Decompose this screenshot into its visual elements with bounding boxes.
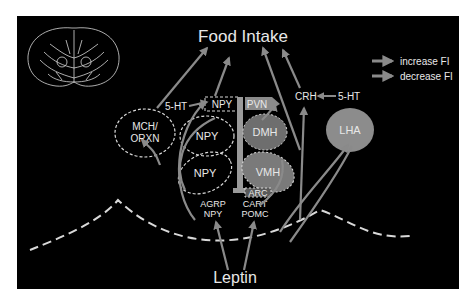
5ht-left-label: 5-HT [165, 101, 187, 112]
npy-low-label: NPY [194, 167, 217, 179]
brain-section-icon [28, 28, 119, 86]
vmh-label: VMH [256, 166, 281, 178]
5ht-right-label: 5-HT [338, 91, 360, 102]
food-intake-title: Food Intake [198, 27, 288, 46]
leptin-label: Leptin [213, 269, 257, 286]
legend-decrease-label: decrease FI [400, 71, 453, 82]
legend-increase-label: increase FI [400, 56, 449, 67]
arc-label: ARC [248, 188, 268, 198]
pvn-label: PVN [247, 99, 268, 110]
lha-label: LHA [339, 124, 361, 136]
agrp-label: AGRP [200, 199, 226, 209]
npy-mid-label: NPY [196, 130, 219, 142]
crh-label: CRH [295, 91, 317, 102]
ventricle [237, 97, 243, 190]
hypothalamus-diagram: Food Intake increase FI decrease FI MCH/… [0, 0, 473, 304]
legend: increase FI decrease FI [372, 56, 453, 82]
dmh-label: DMH [252, 126, 277, 138]
npy-output-label: NPY [204, 209, 223, 219]
pomc-label: POMC [242, 209, 270, 219]
npy-top-label: NPY [212, 99, 233, 110]
mch-label: MCH/ [132, 121, 158, 132]
